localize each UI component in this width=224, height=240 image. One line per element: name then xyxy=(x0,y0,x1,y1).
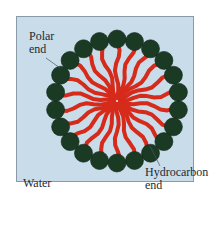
polar-head xyxy=(164,66,182,84)
polar-head xyxy=(126,33,144,51)
water-label: Water xyxy=(23,177,51,190)
polar-end-label: Polar end xyxy=(29,30,54,56)
polar-head xyxy=(91,152,109,170)
hydrocarbon-end-label: Hydrocarbon end xyxy=(145,166,208,192)
polar-head xyxy=(47,101,65,119)
polar-head xyxy=(169,83,187,101)
polar-head xyxy=(75,40,93,58)
polar-head xyxy=(52,118,70,136)
polar-head xyxy=(47,83,65,101)
polar-head xyxy=(126,152,144,170)
polar-end-leader xyxy=(46,58,60,68)
polar-head xyxy=(169,101,187,119)
hydrocarbon-tail xyxy=(115,104,120,159)
polar-head xyxy=(108,30,126,48)
hydrocarbon-label-line2: end xyxy=(145,179,208,192)
polar-head xyxy=(108,154,126,172)
polar-label-line2: end xyxy=(29,43,54,56)
polar-head xyxy=(91,33,109,51)
